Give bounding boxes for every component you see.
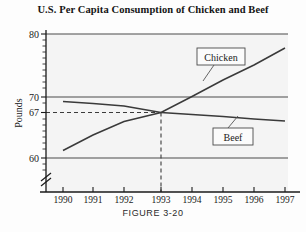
xtick-label-1994: 1994 [183, 195, 202, 205]
xtick-label-1996: 1996 [245, 195, 264, 205]
ytick-label-60: 60 [29, 153, 39, 164]
xtick-label-1990: 1990 [54, 195, 73, 205]
figure-caption: FIGURE 3-20 [0, 208, 306, 218]
ytick-label-80: 80 [29, 29, 39, 40]
y-major-ticks [41, 34, 46, 158]
annotation-label-beef: Beef [224, 132, 244, 143]
ytick-label-67: 67 [29, 107, 39, 118]
y-axis-title: Pounds [13, 98, 24, 128]
xtick-label-1991: 1991 [84, 195, 103, 205]
xtick-label-1997: 1997 [276, 195, 295, 205]
xtick-label-1993: 1993 [152, 195, 171, 205]
line-chart: 80 70 67 60 Pounds 1990 1991 1992 1993 1… [0, 0, 306, 232]
xtick-label-1992: 1992 [115, 195, 134, 205]
xtick-label-1995: 1995 [214, 195, 233, 205]
figure-container: U.S. Per Capita Consumption of Chicken a… [0, 0, 306, 232]
annotation-label-chicken: Chicken [204, 52, 237, 63]
ytick-label-70: 70 [29, 92, 39, 103]
